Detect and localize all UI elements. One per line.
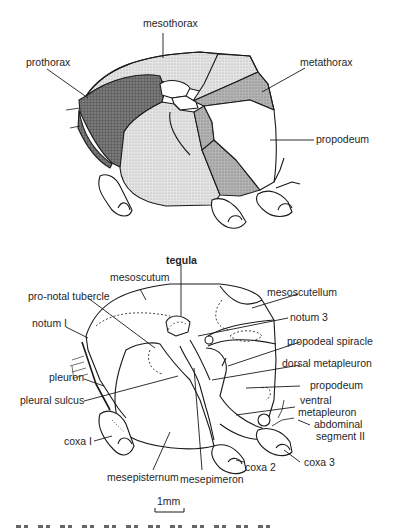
label-tegula: tegula [166, 255, 197, 266]
label-propodeum-bottom: propodeum [310, 380, 363, 391]
label-propodeum-top: propodeum [316, 134, 369, 145]
label-coxa3: coxa 3 [304, 457, 335, 468]
label-pleuron: pleuron [49, 372, 84, 383]
label-dorsal-metapleuron: dorsal metapleuron [282, 358, 372, 369]
label-mesoscutellum: mesoscutellum [267, 287, 337, 298]
label-coxa2: coxa 2 [245, 462, 276, 473]
label-mesepimeron: mesepimeron [180, 474, 244, 485]
scale-bar [155, 508, 184, 512]
label-metapleuron: metapleuron [298, 407, 356, 418]
bottom-thorax-diagram [70, 284, 294, 474]
label-mesoscutum: mesoscutum [110, 272, 170, 283]
label-notum1: notum I [32, 318, 67, 329]
label-mesepisternum: mesepisternum [107, 472, 179, 483]
label-ventral: ventral [300, 395, 332, 406]
coxa2-top [211, 199, 246, 229]
label-coxa1: coxa I [64, 436, 92, 447]
label-mesothorax: mesothorax [143, 18, 198, 29]
label-pleural-sulcus: pleural sulcus [20, 395, 84, 406]
thorax-figure [0, 0, 394, 528]
label-abdominal: abdominal [314, 419, 362, 430]
caption-cropped [16, 522, 276, 528]
label-pronotal-tubercle: pro-notal tubercle [28, 291, 110, 302]
label-propodeal-spiracle: propodeal spiracle [287, 336, 373, 347]
label-segment: segment II [316, 431, 365, 442]
label-metathorax: metathorax [300, 57, 353, 68]
label-notum3: notum 3 [290, 312, 328, 323]
label-prothorax: prothorax [26, 57, 70, 68]
scale-bar-label: 1mm [157, 496, 180, 507]
top-thorax-diagram [66, 52, 300, 228]
